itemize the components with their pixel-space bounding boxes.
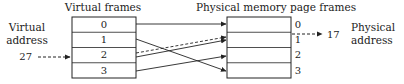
virtual-frames-table: 0 1 2 3: [72, 17, 136, 78]
physical-frame-3: 3: [295, 65, 301, 76]
virtual-frames-title: Virtual frames: [64, 1, 141, 13]
mapping-v3-p2: [136, 56, 226, 71]
virtual-address-value: 27: [19, 51, 32, 62]
physical-frame-2: 2: [295, 49, 301, 60]
page-mapping-diagram: Virtual frames Physical memory page fram…: [0, 0, 404, 84]
virtual-address-label-line2: address: [6, 34, 48, 46]
virtual-frame-0: 0: [101, 19, 107, 30]
mapping-v2-p1-dashed: [136, 37, 226, 53]
physical-frame-0: 0: [295, 19, 301, 30]
physical-frames-table: 0 1 2 3: [227, 17, 301, 78]
virtual-frame-2: 2: [101, 49, 107, 60]
virtual-frame-3: 3: [101, 65, 107, 76]
physical-address-value: 17: [327, 29, 340, 40]
virtual-address-label-line1: Virtual: [8, 21, 46, 33]
physical-frames-title: Physical memory page frames: [196, 1, 356, 13]
mapping-v1-p3: [136, 39, 226, 71]
physical-address-label-line2: address: [351, 34, 393, 46]
physical-frame-1: 1: [295, 34, 301, 45]
mapping-v2-p1: [136, 40, 226, 57]
virtual-frame-1: 1: [101, 34, 107, 45]
physical-address-label-line1: Physical: [351, 21, 396, 33]
